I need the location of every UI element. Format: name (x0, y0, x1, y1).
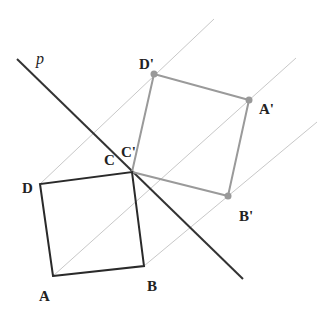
label-d-prime: D' (139, 56, 154, 72)
label-d: D (22, 180, 33, 196)
vertex-a-prime (246, 97, 253, 104)
original-square (40, 172, 144, 276)
reflection-diagram: p A B C D A' B' C' D' (0, 0, 331, 319)
label-a-prime: A' (259, 101, 274, 117)
line-label-p: p (35, 50, 44, 68)
label-a: A (39, 288, 50, 304)
guide-line-a (53, 58, 296, 276)
mirror-line-p (17, 59, 243, 279)
label-c-prime: C' (121, 144, 136, 160)
label-c: C (104, 152, 115, 168)
label-b: B (147, 278, 157, 294)
guide-lines (40, 19, 317, 276)
image-square (132, 74, 249, 196)
label-b-prime: B' (239, 208, 253, 224)
vertex-b-prime (225, 193, 232, 200)
